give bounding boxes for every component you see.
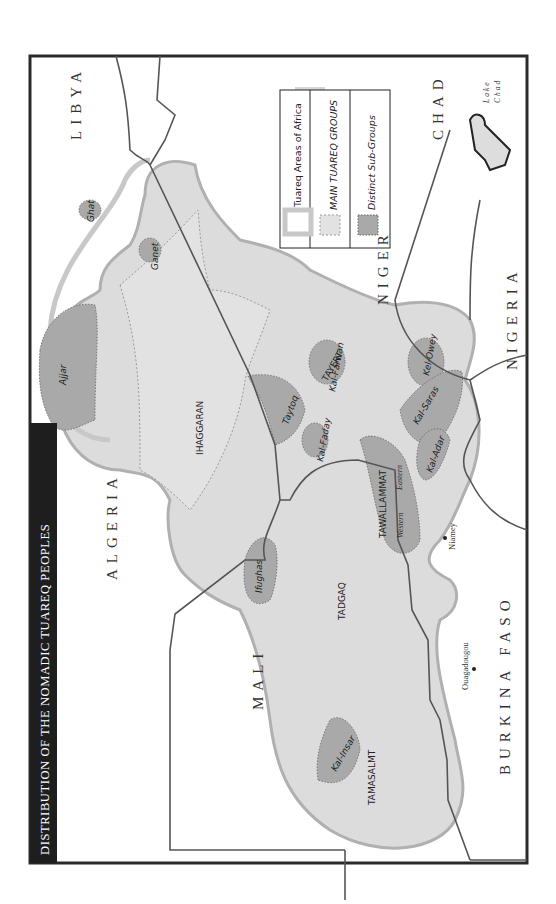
- label-lake-chad-1: Lake: [482, 80, 491, 104]
- label-niger: NIGER: [375, 229, 391, 305]
- label-ganet: Ganet: [150, 242, 160, 270]
- label-ghat: Ghat: [86, 200, 96, 222]
- label-libya: LIBYA: [68, 66, 84, 140]
- legend-label-main-group: MAIN TUAREQ GROUPS: [328, 100, 339, 210]
- label-lake-chad-2: Chad: [493, 79, 502, 103]
- label-burkina-faso: BURKINA FASO: [497, 595, 513, 776]
- label-mali: MALI: [250, 648, 266, 710]
- label-ajjar: Ajjar: [58, 363, 68, 386]
- legend: Tuareq Areas of Africa MAIN TUAREQ GROUP…: [280, 87, 390, 248]
- label-nigeria: NIGERIA: [504, 266, 520, 370]
- legend-label-sub-group: Distinct Sub-Groups: [366, 115, 377, 210]
- label-niamey: Niamey: [447, 522, 457, 550]
- legend-swatch-tuareq-area: [285, 210, 311, 234]
- legend-swatch-main-group: [320, 215, 340, 235]
- label-chad: CHAD: [430, 73, 446, 140]
- tuareq-distribution-map: DISTRIBUTION OF THE NOMADIC TUAREQ PEOPL…: [0, 0, 556, 904]
- map-title: DISTRIBUTION OF THE NOMADIC TUAREQ PEOPL…: [38, 524, 52, 855]
- label-ihaggaran: IHAGGARAN: [195, 401, 205, 455]
- legend-label-tuareq-area: Tuareq Areas of Africa: [292, 103, 303, 208]
- ouagadougou-dot: [472, 667, 476, 671]
- label-tamasalmt: TAMASALMT: [367, 749, 377, 806]
- label-algeria: ALGERIA: [104, 472, 120, 580]
- label-tadgaq: TADGAQ: [337, 582, 347, 621]
- label-tawallammat: TAWALLAMMAT: [378, 470, 388, 539]
- label-ifughas: Ifughas: [254, 560, 264, 593]
- label-western: Western: [396, 513, 405, 538]
- label-eastern: Eastern: [395, 465, 404, 491]
- label-ouagadougou: Ouagadougou: [460, 642, 470, 690]
